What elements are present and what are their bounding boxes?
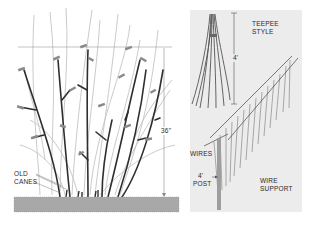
arrow-down-icon <box>162 193 166 197</box>
old-canes-label-line2: CANES <box>14 178 37 186</box>
post-label: POST <box>193 180 212 188</box>
old-canes-label-line1: OLD <box>14 170 37 178</box>
teepee-label-line2: STYLE <box>252 28 279 36</box>
wire-support-canes <box>214 60 290 192</box>
teepee-style-label: TEEPEE STYLE <box>252 20 279 35</box>
wire-support-label-line2: SUPPORT <box>260 185 293 193</box>
wire-support-label: WIRE SUPPORT <box>260 177 293 192</box>
support-post <box>217 138 221 210</box>
wire-support-label-line1: WIRE <box>260 177 293 185</box>
soil-bed <box>14 197 179 212</box>
wires-label: WIRES <box>190 150 212 158</box>
height-36-label: 36" <box>160 127 172 135</box>
teepee-tie <box>209 34 217 37</box>
teepee-label-line1: TEEPEE <box>252 20 279 28</box>
old-canes-label: OLD CANES <box>14 170 37 185</box>
pruning-illustration: OLD CANES 36" TEEPEE STYLE 4' WIRES 4' P… <box>0 0 310 227</box>
new-canes <box>20 8 175 195</box>
teepee-height-label: 4' <box>233 54 238 62</box>
teepee-canes <box>192 14 230 108</box>
post-height-label: 4' <box>198 172 203 180</box>
stubs <box>66 190 98 197</box>
